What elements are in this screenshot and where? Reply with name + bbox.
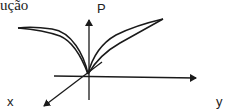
x-axis [44, 62, 102, 106]
diagram-canvas [0, 0, 225, 112]
y-axis [54, 76, 196, 78]
x-axis-label: x [7, 95, 14, 108]
right-curve-inner [88, 19, 163, 74]
p-axis-label: P [97, 2, 106, 15]
y-axis-label: y [216, 95, 223, 108]
left-curve-inner [18, 28, 88, 74]
right-curve-outer [88, 19, 163, 74]
